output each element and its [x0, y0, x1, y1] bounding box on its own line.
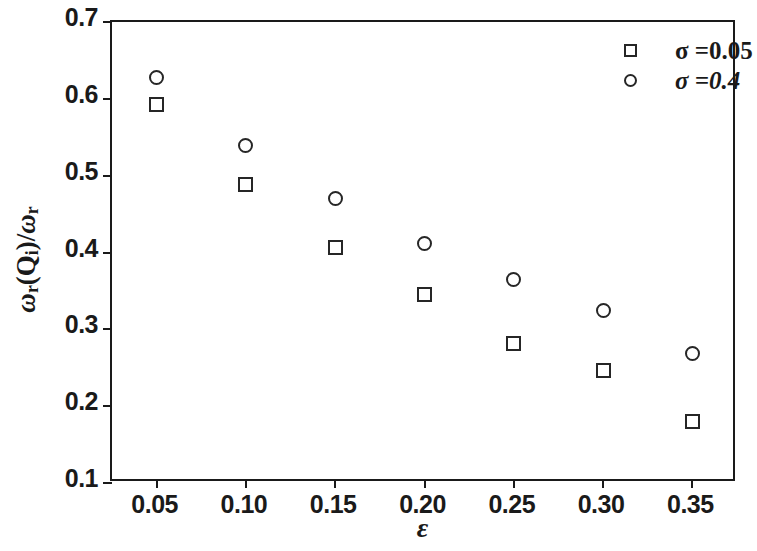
- legend-label-0: σ =0.05: [675, 37, 753, 65]
- y-axis-tick: [103, 175, 112, 177]
- data-point-circle-3: [417, 236, 432, 251]
- legend-entry-0[interactable]: σ =0.05: [617, 36, 757, 66]
- x-axis-tick: [691, 479, 693, 488]
- y-axis-tick-label: 0.1: [18, 464, 98, 493]
- y-axis-tick-label: 0.2: [18, 387, 98, 416]
- y-axis-tick: [103, 21, 112, 23]
- y-axis-tick: [103, 98, 112, 100]
- data-point-circle-6: [685, 346, 700, 361]
- plot-area: σ =0.05σ =0.4: [110, 20, 735, 481]
- data-point-square-3: [417, 287, 432, 302]
- circle-marker-glyph: [624, 74, 637, 87]
- data-point-square-6: [685, 414, 700, 429]
- circle-marker: [617, 71, 647, 91]
- x-axis-tick: [334, 479, 336, 488]
- y-axis-tick: [103, 252, 112, 254]
- legend-label-1: σ =0.4: [675, 67, 740, 95]
- y-axis-tick-label: 0.7: [18, 3, 98, 32]
- y-axis-tick: [103, 328, 112, 330]
- data-point-circle-4: [506, 272, 521, 287]
- legend-entry-1[interactable]: σ =0.4: [617, 66, 757, 96]
- square-marker-glyph: [624, 44, 637, 57]
- data-point-square-1: [238, 177, 253, 192]
- data-point-circle-0: [149, 70, 164, 85]
- x-axis-tick: [602, 479, 604, 488]
- data-point-square-4: [506, 336, 521, 351]
- x-axis-tick: [245, 479, 247, 488]
- data-point-circle-2: [328, 191, 343, 206]
- data-point-circle-5: [596, 303, 611, 318]
- data-point-square-5: [596, 363, 611, 378]
- x-axis-tick: [513, 479, 515, 488]
- x-axis-tick: [424, 479, 426, 488]
- square-marker: [617, 41, 647, 61]
- data-point-square-0: [149, 97, 164, 112]
- y-axis-tick-label: 0.6: [18, 80, 98, 109]
- x-axis-tick: [156, 479, 158, 488]
- chart-legend: σ =0.05σ =0.4: [617, 36, 757, 96]
- x-axis-title: ε: [110, 512, 735, 544]
- data-point-circle-1: [238, 138, 253, 153]
- y-axis-tick: [103, 405, 112, 407]
- data-point-square-2: [328, 240, 343, 255]
- y-axis-title: ωr(Qi)/ωr: [11, 129, 44, 389]
- y-axis-tick: [103, 482, 112, 484]
